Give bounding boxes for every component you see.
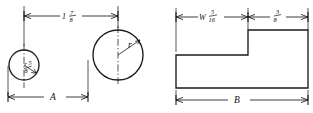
large-circle-radius-letter: r [128,40,132,50]
technical-drawing-canvas: 1 7 8 r 5 8 r A [0,0,313,113]
side-top-dim-numerator: 5 [211,8,214,15]
drawing-sheet: 1 7 8 r 5 8 r A [0,0,313,113]
side-top-dim2-denominator: 8 [274,16,278,23]
side-view-group: W 5 16 3 8 B [176,8,308,106]
side-top-dim-denominator: 16 [209,16,216,23]
side-top-dim-whole: W [199,13,207,22]
top-dimension-numerator: 7 [70,9,74,16]
stepped-part-outline [176,30,308,88]
small-circle-radius-numerator: 5 [29,59,32,66]
small-circle-radius-letter: r [25,60,28,67]
side-bottom-dim-label-b: B [234,95,240,105]
top-dimension-whole: 1 [62,12,66,21]
small-circle-radius-denominator: 8 [24,67,28,74]
top-dimension-denominator: 8 [70,16,74,23]
side-top-dim2-numerator: 3 [275,8,279,15]
bottom-dimension-label-a: A [49,92,56,102]
front-view-group: 1 7 8 r 5 8 r A [8,6,143,102]
